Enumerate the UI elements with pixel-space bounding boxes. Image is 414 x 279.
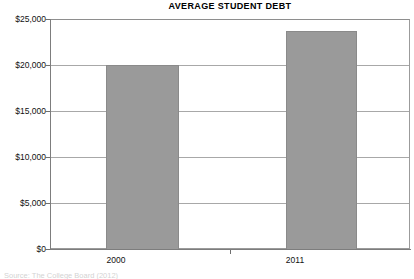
y-tick-label-10000: $10,000 <box>2 152 46 162</box>
y-tick-label-15000: $15,000 <box>2 106 46 116</box>
y-tick-label-20000: $20,000 <box>2 60 46 70</box>
bar-2000 <box>106 65 179 250</box>
chart-title: AVERAGE STUDENT DEBT <box>50 1 410 11</box>
source-note: Source: The College Board (2012) <box>4 271 224 279</box>
x-tick-mark-midpoint <box>230 250 231 254</box>
x-tick-label-2000: 2000 <box>71 255 161 265</box>
y-tick-label-0: $0 <box>2 244 46 254</box>
plot-area <box>50 19 410 249</box>
y-axis: $25,000 $20,000 $15,000 $10,000 $5,000 $… <box>0 0 46 279</box>
y-tick-label-5000: $5,000 <box>2 198 46 208</box>
y-tick-label-25000: $25,000 <box>2 14 46 24</box>
bar-2011 <box>286 31 357 250</box>
chart-figure: AVERAGE STUDENT DEBT $25,000 $20,000 $15… <box>0 0 414 279</box>
y-axis-line <box>50 19 51 250</box>
x-tick-label-2011: 2011 <box>250 255 340 265</box>
